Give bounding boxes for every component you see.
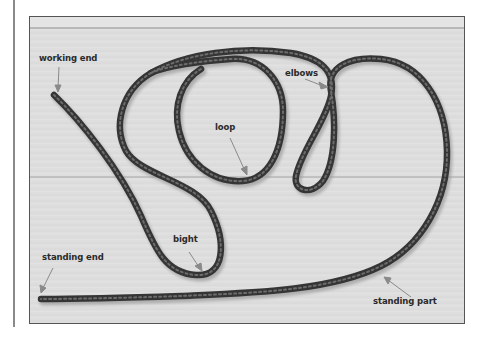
label-bight: bight: [173, 234, 198, 244]
rope-photo: working end loop elbows bight standing e…: [29, 16, 465, 324]
label-loop: loop: [215, 122, 235, 132]
label-working-end: working end: [39, 53, 97, 63]
label-standing-part: standing part: [373, 296, 437, 306]
left-margin-rule: [13, 0, 15, 327]
label-standing-end: standing end: [42, 252, 104, 262]
rope-illustration: [30, 17, 465, 324]
label-elbows: elbows: [285, 68, 318, 78]
